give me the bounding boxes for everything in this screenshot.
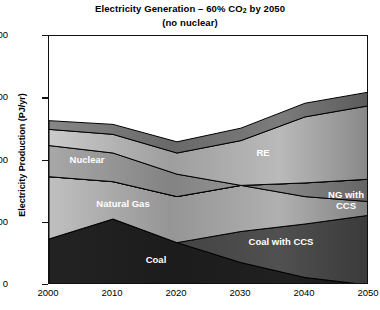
y-tick-mark-0	[42, 284, 48, 285]
x-tick-label-2000: 2000	[26, 287, 70, 298]
title-line-1: Electricity Generation – 60% CO2 by 2050	[95, 3, 285, 14]
series-label-coal-ccs: Coal with CCS	[249, 236, 314, 247]
series-label-chp: CHP	[234, 111, 254, 122]
plot-area: CHPRENuclearNatural GasNG withCCSCoal wi…	[48, 35, 368, 284]
chart-root: Electricity Generation – 60% CO2 by 2050…	[0, 0, 380, 310]
x-tick-label-2030: 2030	[218, 287, 262, 298]
y-tick-label-1500: 1500	[0, 91, 8, 102]
y-tick-label-1000: 1000	[0, 154, 8, 165]
series-label-coal: Coal	[146, 254, 167, 265]
y-tick-label-500: 500	[0, 216, 8, 227]
title-text-pre: Electricity Generation – 60% CO	[95, 3, 243, 14]
title-text-post: by 2050	[247, 3, 285, 14]
y-tick-label-2000: 2000	[0, 29, 8, 40]
x-tick-label-2040: 2040	[282, 287, 326, 298]
x-tick-label-2050: 2050	[346, 287, 380, 298]
x-tick-label-2010: 2010	[90, 287, 134, 298]
x-tick-label-2020: 2020	[154, 287, 198, 298]
series-label-nuclear: Nuclear	[70, 154, 105, 165]
chart-subtitle: (no nuclear)	[0, 17, 380, 29]
series-label-ng-ccs: NG withCCS	[328, 189, 364, 211]
y-tick-label-0: 0	[0, 278, 8, 289]
series-label-natural-gas: Natural Gas	[96, 198, 149, 209]
y-axis-title: Electricity Production (PJ/yr)	[17, 40, 27, 270]
series-label-re: RE	[256, 147, 269, 158]
chart-title: Electricity Generation – 60% CO2 by 2050…	[0, 3, 380, 29]
